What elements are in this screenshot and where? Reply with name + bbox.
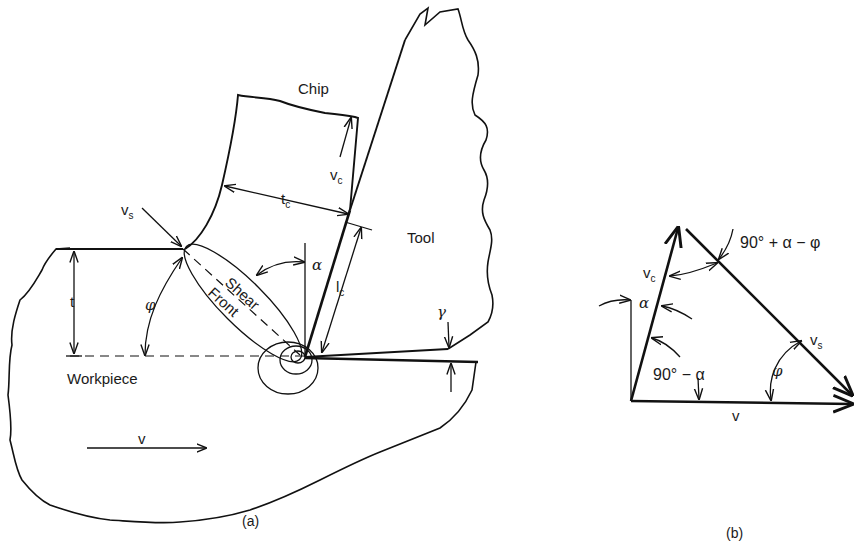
alpha-label: α (312, 256, 322, 274)
phi-label-b: φ (772, 362, 783, 380)
vs-label: vs (121, 201, 134, 221)
chip-label: Chip (298, 80, 329, 97)
vs-arrow (142, 208, 181, 246)
v-label-b: v (732, 407, 740, 424)
gamma-label: γ (437, 303, 446, 321)
alpha-angle-arc (257, 262, 304, 275)
machined-surface (305, 358, 478, 362)
tool-outline (405, 8, 493, 349)
gamma-arrow-top (448, 322, 449, 347)
velocity-v-vector (631, 401, 852, 404)
figure-b: vc vs v α φ 90° + α − φ 90° − α (b) (599, 228, 852, 541)
vc-label-b: vc (643, 264, 656, 284)
ninety-minus-alpha-arc (652, 338, 680, 357)
v-label: v (138, 430, 146, 447)
tool-flank (305, 349, 448, 357)
velocity-vs-vector (686, 229, 852, 395)
figure-a: Chip Tool Workpiece vc vs tc lc t v α φ … (8, 8, 493, 529)
figure-b-caption: (b) (726, 525, 743, 541)
alpha-arc-right (662, 306, 692, 319)
orthogonal-cutting-diagram: Chip Tool Workpiece vc vs tc lc t v α φ … (0, 0, 854, 548)
tool-label: Tool (407, 229, 435, 246)
top-angle-arc (670, 263, 717, 276)
top-angle-pointer (719, 229, 733, 259)
alpha-label-b: α (639, 294, 649, 312)
tc-label: tc (281, 190, 290, 210)
lc-dimension-tick (345, 222, 372, 230)
top-angle-label: 90° + α − φ (740, 234, 820, 251)
phi-label: φ (145, 296, 156, 314)
figure-a-caption: (a) (242, 513, 259, 529)
alpha-arc-left (599, 300, 630, 306)
left-angle-label: 90° − α (653, 366, 705, 383)
vs-label-b: vs (810, 331, 823, 351)
lc-label: lc (336, 278, 344, 298)
workpiece-label: Workpiece (67, 370, 138, 387)
vc-arrow (340, 118, 351, 157)
vc-label: vc (330, 166, 343, 186)
